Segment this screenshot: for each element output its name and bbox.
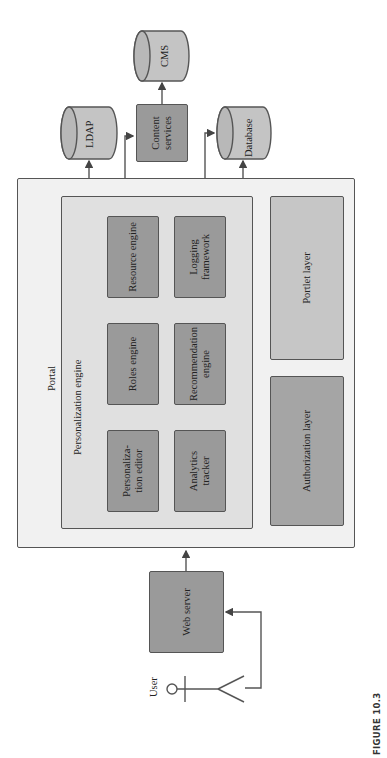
cms-label: CMS: [159, 45, 171, 67]
content-services-box: Content services: [136, 104, 188, 162]
web-server-box: Web server: [149, 571, 224, 653]
figure-caption: FIGURE 10.3: [372, 693, 382, 755]
ldap-label: LDAP: [84, 121, 96, 148]
analytics-tracker-box: Analytics tracker: [174, 430, 226, 512]
resource-engine-box: Resource engine: [107, 216, 159, 298]
personalization-engine-label: Personalization engine: [72, 360, 84, 455]
portal-label: Portal: [46, 366, 58, 391]
recommendation-engine-box: Recommendation engine: [174, 323, 226, 405]
portlet-layer-box: Portlet layer: [270, 196, 344, 360]
roles-engine-box: Roles engine: [107, 323, 159, 405]
database-label: Database: [243, 119, 255, 157]
personalization-editor-box: Personaliza- tion editor: [107, 430, 159, 512]
authorization-layer-box: Authorization layer: [270, 376, 344, 526]
logging-framework-box: Logging framework: [174, 216, 226, 298]
user-label: User: [148, 677, 160, 697]
